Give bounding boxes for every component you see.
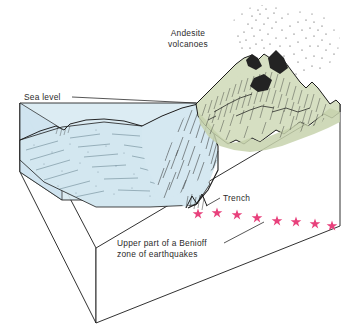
ash-plume-wisps — [232, 5, 325, 31]
diagram-canvas — [0, 0, 355, 333]
label-andesite-line1: Andesite — [168, 28, 208, 39]
label-andesite-volcanoes: Andesite volcanoes — [168, 28, 208, 49]
ash-plume-left — [237, 8, 282, 48]
leader-sea-level — [72, 97, 196, 103]
label-benioff-line2: zone of earthquakes — [117, 249, 207, 260]
label-benioff-line1: Upper part of a Benioff — [117, 238, 207, 249]
subduction-block-diagram: Andesite volcanoes Sea level Trench Uppe… — [0, 0, 355, 333]
label-andesite-line2: volcanoes — [168, 39, 208, 50]
label-benioff-zone: Upper part of a Benioff zone of earthqua… — [117, 238, 207, 259]
label-trench: Trench — [223, 193, 250, 204]
label-sea-level: Sea level — [24, 92, 61, 103]
